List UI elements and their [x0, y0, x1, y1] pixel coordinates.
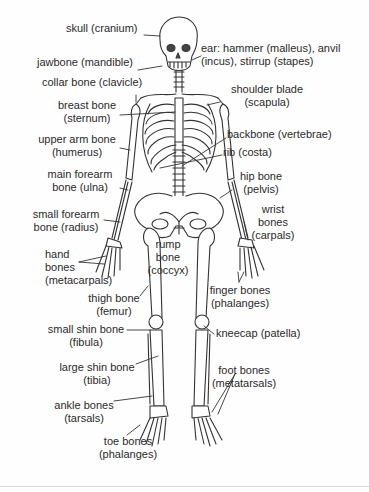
label-hand-bones: handbones(metacarpals) [45, 248, 112, 287]
label-ear: ear: hammer (malleus), anvil(incus), sti… [201, 42, 340, 68]
label-skull: skull (cranium) [66, 22, 138, 35]
label-rump-bone: rumpbone(coccyx) [145, 238, 191, 277]
page-edge-divider [0, 486, 369, 487]
label-breast-bone: breast bone(sternum) [52, 99, 122, 125]
label-foot-bones: foot bones(metatarsals) [209, 364, 279, 390]
label-tibia: large shin bone(tibia) [57, 361, 137, 387]
label-thigh-bone: thigh bone(femur) [86, 292, 142, 318]
label-radius: small forearmbone (radius) [28, 208, 104, 234]
label-fibula: small shin bone(fibula) [45, 323, 127, 349]
skeleton-diagram: skull (cranium) ear: hammer (malleus), a… [0, 0, 369, 492]
label-kneecap: kneecap (patella) [216, 327, 300, 340]
label-ankle-bones: ankle bones(tarsals) [54, 399, 114, 425]
label-wrist-bones: wristbones(carpals) [245, 203, 301, 242]
skull-drawing [160, 17, 198, 71]
label-jawbone: jawbone (mandible) [37, 56, 133, 69]
label-backbone: backbone (vertebrae) [227, 128, 332, 141]
rib-cage-drawing [143, 98, 216, 172]
spine-drawing [173, 142, 185, 196]
label-ulna: main forearmbone (ulna) [40, 168, 120, 194]
label-collar-bone: collar bone (clavicle) [42, 76, 142, 89]
label-shoulder-blade: shoulder blade(scapula) [208, 83, 326, 109]
label-upper-arm-bone: upper arm bone(humerus) [34, 133, 120, 159]
label-hip-bone: hip bone(pelvis) [232, 170, 290, 196]
label-rib: rib (costa) [223, 146, 272, 159]
label-toe-bones: toe bones(phalanges) [96, 435, 160, 461]
label-finger-bones: finger bones(phalanges) [206, 284, 274, 310]
